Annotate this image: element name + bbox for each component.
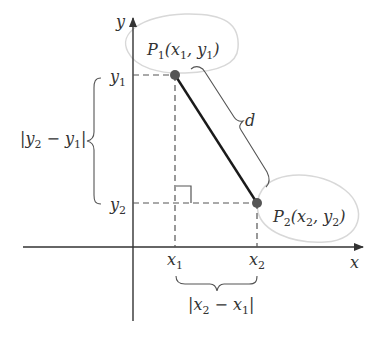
point-p1 xyxy=(170,70,180,80)
horizontal-distance-label: |x2 − x1| xyxy=(188,295,254,317)
p2-label: P2(x2, y2) xyxy=(272,207,346,229)
y-axis-label: y xyxy=(115,12,126,31)
horizontal-brace xyxy=(176,276,257,291)
x-axis-label: x xyxy=(350,253,359,272)
p1-label: P1(x1, y1) xyxy=(146,40,220,62)
x2-tick-label: x2 xyxy=(249,250,265,272)
p1-highlight-blob xyxy=(126,14,239,73)
y2-tick-label: y2 xyxy=(109,195,126,217)
vertical-brace xyxy=(87,78,101,204)
x1-tick-label: x1 xyxy=(167,250,183,272)
distance-segment xyxy=(175,75,257,203)
vertical-distance-label: |y2 − y1| xyxy=(20,129,86,151)
distance-diagram: y x P1(x1, y1) P2(x2, y2) y1 y2 x1 x2 |y… xyxy=(0,0,392,340)
y1-tick-label: y1 xyxy=(109,67,126,89)
dashed-guides xyxy=(133,75,257,247)
point-p2 xyxy=(252,198,262,208)
right-angle-marker xyxy=(176,186,191,203)
diagonal-brace xyxy=(191,67,269,187)
distance-d-label: d xyxy=(245,111,255,130)
